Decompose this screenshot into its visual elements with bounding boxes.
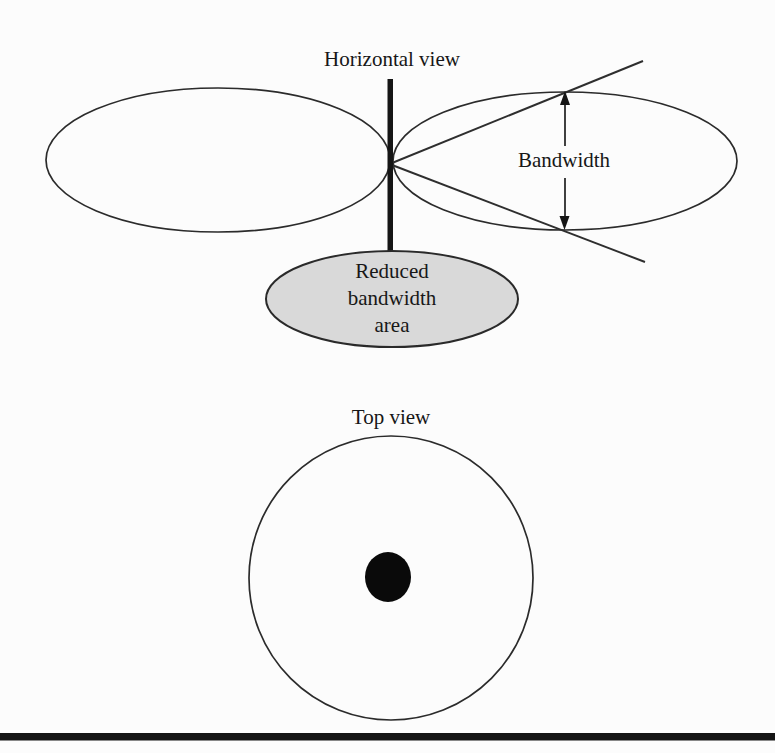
antenna-pattern-diagram: Horizontal view Bandwidth Reduced bandwi… xyxy=(0,0,775,753)
antenna-pattern-figure: Horizontal view Bandwidth Reduced bandwi… xyxy=(0,0,775,753)
bottom-rule xyxy=(0,733,775,741)
arrowhead-down-icon xyxy=(560,216,570,230)
bandwidth-label: Bandwidth xyxy=(518,148,611,172)
horizontal-view-title: Horizontal view xyxy=(324,47,461,71)
reduced-bandwidth-label-line3: area xyxy=(375,313,411,337)
antenna-top-dot xyxy=(365,552,411,602)
reduced-bandwidth-label-line1: Reduced xyxy=(355,259,429,283)
antenna-mast-line xyxy=(388,79,394,254)
reduced-bandwidth-label-line2: bandwidth xyxy=(348,286,437,310)
beam-lower-edge-line xyxy=(392,165,645,262)
left-lobe-ellipse xyxy=(46,88,390,232)
top-view-title: Top view xyxy=(352,405,431,429)
